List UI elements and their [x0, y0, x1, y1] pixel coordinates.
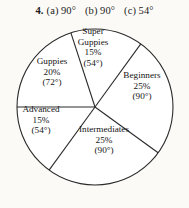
answer-part-a: (a)90° — [47, 5, 76, 16]
answer-part-a-tag: (a) — [47, 5, 59, 16]
answer-part-a-value: 90° — [61, 5, 76, 16]
pie-chart: Super Guppies 15% (54°) Guppies 20% (72°… — [0, 18, 189, 208]
answer-number: 4. — [35, 5, 43, 16]
pie-chart-figure: 4. (a)90° (b)90° (c)54° — [0, 0, 189, 208]
answer-part-b-tag: (b) — [85, 5, 98, 16]
answer-part-c-tag: (c) — [124, 5, 136, 16]
answer-part-c-value: 54° — [139, 5, 154, 16]
answer-part-c: (c)54° — [124, 5, 153, 16]
answer-part-b-value: 90° — [100, 5, 115, 16]
answer-line: 4. (a)90° (b)90° (c)54° — [0, 2, 189, 18]
answer-part-b: (b)90° — [85, 5, 115, 16]
pie-chart-svg — [0, 18, 189, 208]
